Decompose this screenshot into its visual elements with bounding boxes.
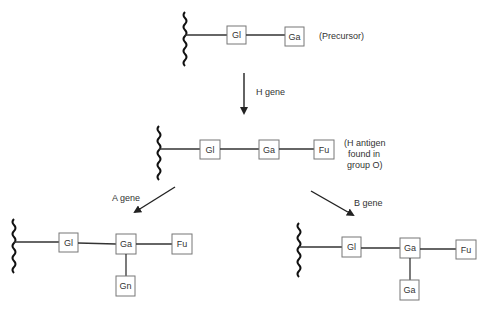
sugar-label: Gl [232,30,241,40]
cell-membrane-icon [158,126,161,180]
sugar-label: Ga [288,32,300,42]
h-antigen-label-line1: (H antigen [344,138,386,148]
h-antigen-label-line3: group O) [347,160,383,170]
cell-membrane-icon [298,223,301,277]
cell-membrane-icon [13,219,16,273]
sugar-label: Ga [404,243,416,253]
b-antigen-structure: Gl Ga Fu Ga [298,223,477,300]
a-antigen-structure: Gl Ga Fu Gn [13,219,193,296]
sugar-label: Fu [177,239,188,249]
blood-group-antigen-diagram: Gl Ga (Precursor) H gene Gl Ga Fu (H ant… [0,0,485,311]
sugar-label: Fu [461,245,472,255]
h-antigen-label-line2: found in [348,149,380,159]
precursor-structure: Gl Ga (Precursor) [184,12,365,66]
b-gene-label: B gene [354,198,383,208]
a-gene-arrow [135,187,175,212]
a-gene-label: A gene [112,193,140,203]
h-gene-label: H gene [256,87,285,97]
precursor-label: (Precursor) [319,31,364,41]
sugar-label: Ga [263,145,275,155]
b-gene-arrow [311,191,353,215]
sugar-label: Gn [119,281,131,291]
sugar-label: Ga [403,285,415,295]
sugar-label: Gl [206,145,215,155]
h-antigen-structure: Gl Ga Fu (H antigen found in group O) [158,126,386,180]
sugar-label: Gl [347,242,356,252]
sugar-label: Ga [120,239,132,249]
sugar-label: Fu [319,145,330,155]
cell-membrane-icon [184,12,187,66]
sugar-label: Gl [64,238,73,248]
